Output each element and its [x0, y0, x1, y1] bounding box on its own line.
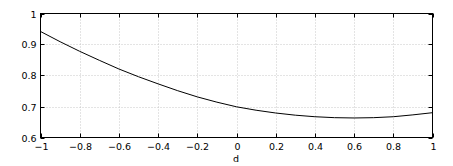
x-tick-label: 0 — [234, 141, 240, 152]
x-tick-label: −0.8 — [69, 141, 92, 152]
x-axis-label: d — [233, 153, 239, 164]
x-tick-label: −0.4 — [147, 141, 170, 152]
x-tick-label: 1 — [430, 141, 436, 152]
y-tick-label: 0.9 — [21, 39, 36, 50]
y-tick-label: 0.6 — [21, 133, 36, 144]
y-tick-label: 0.8 — [21, 70, 36, 81]
line-chart: −1−0.8−0.6−0.4−0.200.20.40.60.81 0.60.70… — [0, 0, 453, 166]
y-tick-labels: 0.60.70.80.91 — [21, 9, 36, 144]
x-tick-labels: −1−0.8−0.6−0.4−0.200.20.40.60.81 — [34, 141, 436, 152]
x-tick-label: 0.2 — [269, 141, 284, 152]
x-tick-label: −1 — [34, 141, 48, 152]
x-tick-label: 0.6 — [347, 141, 362, 152]
axis-ticks — [41, 14, 434, 139]
x-tick-label: −0.2 — [186, 141, 209, 152]
x-tick-label: 0.8 — [386, 141, 401, 152]
y-tick-label: 1 — [30, 9, 36, 20]
x-tick-label: −0.6 — [108, 141, 131, 152]
x-tick-label: 0.4 — [308, 141, 323, 152]
y-tick-label: 0.7 — [21, 102, 36, 113]
grid-lines — [41, 14, 433, 138]
